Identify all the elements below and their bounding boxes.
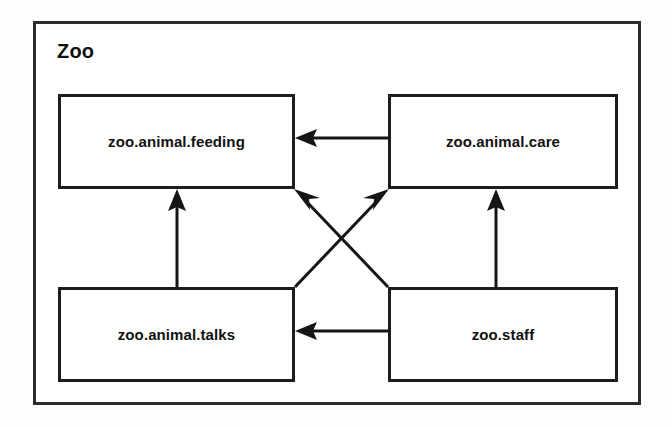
package-node-staff[interactable]: zoo.staff xyxy=(388,287,618,382)
package-node-staff-label: zoo.staff xyxy=(472,326,535,343)
package-node-feeding[interactable]: zoo.animal.feeding xyxy=(58,94,295,189)
package-title: Zoo xyxy=(57,40,94,63)
package-node-care-label: zoo.animal.care xyxy=(446,133,560,150)
package-diagram-canvas: Zoo zoo.animal.feeding zoo.animal.care z… xyxy=(0,0,672,427)
package-node-care[interactable]: zoo.animal.care xyxy=(388,94,618,189)
package-node-feeding-label: zoo.animal.feeding xyxy=(108,133,245,150)
package-node-talks-label: zoo.animal.talks xyxy=(118,326,235,343)
package-node-talks[interactable]: zoo.animal.talks xyxy=(58,287,295,382)
